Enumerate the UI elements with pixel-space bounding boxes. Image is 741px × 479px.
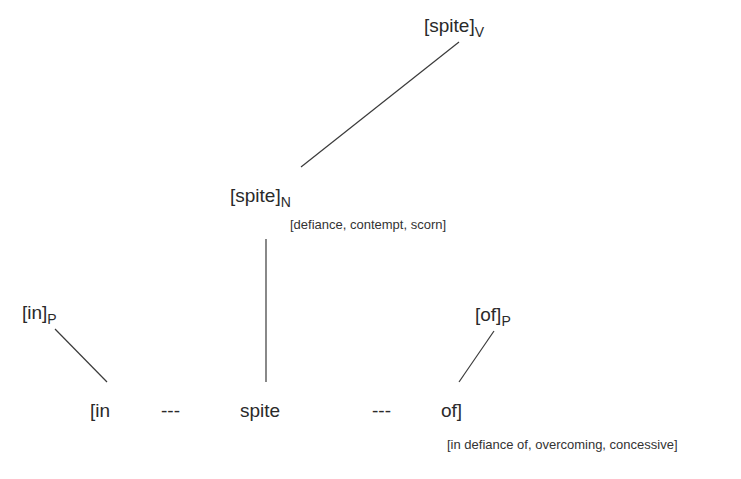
construction-dash-1: --- [161, 401, 180, 420]
node-in-preposition: [in]P [22, 303, 57, 326]
node-base: [spite] [230, 185, 281, 206]
node-spite-noun: [spite]N [230, 186, 291, 209]
category-subscript: P [47, 311, 56, 327]
node-base: [in] [22, 302, 47, 323]
category-subscript: V [475, 24, 484, 40]
category-subscript: N [281, 194, 291, 210]
noun-gloss: [defiance, contempt, scorn] [290, 218, 446, 231]
node-base: [spite] [424, 15, 475, 36]
edge-verb-to-noun [301, 42, 459, 167]
node-of-preposition: [of]P [475, 305, 511, 328]
construction-dash-2: --- [372, 401, 391, 420]
construction-word-in: [in [90, 401, 110, 420]
edge-of-to-construction [459, 331, 494, 382]
category-subscript: P [501, 313, 510, 329]
edge-in-to-construction [55, 329, 107, 382]
construction-word-of: of] [441, 401, 462, 420]
node-base: [of] [475, 304, 501, 325]
node-spite-verb: [spite]V [424, 16, 484, 39]
construction-word-spite: spite [240, 401, 280, 420]
tree-edges [0, 0, 741, 479]
construction-gloss: [in defiance of, overcoming, concessive] [447, 438, 678, 451]
